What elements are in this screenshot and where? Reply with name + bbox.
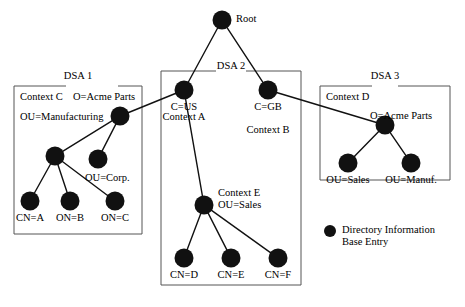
annotation-context_a: Context A (163, 111, 206, 123)
node-mid1 (46, 147, 65, 166)
directory-tree-diagram: DSA 1DSA 2DSA 3RootC=USC=GBOU=Manufactur… (0, 0, 465, 307)
node-label-cn_d: CN=D (170, 269, 198, 281)
node-label-cgb: C=GB (254, 101, 282, 113)
dsa-title-dsa3: DSA 3 (371, 70, 399, 82)
node-root (213, 11, 232, 30)
edge-ou_sales_e-to-cn_e (208, 212, 228, 251)
node-label-ou_sales_e: OU=Sales (218, 199, 261, 211)
node-ou_manuf3 (402, 154, 421, 173)
legend-label: Directory InformationBase Entry (342, 224, 435, 247)
legend-label-line-1: Directory Information (342, 224, 435, 236)
node-label-cn_f: CN=F (265, 269, 291, 281)
annotation-context_e: Context E (218, 187, 260, 199)
node-cn_a (21, 192, 40, 211)
edge-ou_sales_e-to-cn_f (211, 210, 272, 254)
edge-mid1-to-on_b (58, 164, 68, 194)
node-label-on_b: ON=B (56, 212, 84, 224)
edge-root-to-cus (188, 27, 218, 83)
node-on_b (61, 192, 80, 211)
node-label-ou_manu: OU=Manufacturing (20, 111, 103, 123)
annotation-context_c: Context C (20, 91, 63, 103)
node-cus (175, 81, 194, 100)
node-cgb (259, 81, 278, 100)
node-label-ou_sales3: OU=Sales (326, 174, 369, 186)
edge-ou_sales_e-to-cn_d (187, 212, 201, 250)
node-cn_d (175, 249, 194, 268)
node-cn_f (269, 249, 288, 268)
annotation-context_b: Context B (247, 124, 290, 136)
edge-o_acme_d3-to-ou_sales3 (354, 131, 380, 158)
dsa-title-dsa2: DSA 2 (217, 60, 245, 72)
node-on_c (106, 192, 125, 211)
edge-o_acme_d3-to-ou_manuf3 (390, 132, 407, 157)
legend-label-line-2: Base Entry (342, 236, 435, 248)
node-label-cn_e: CN=E (218, 269, 245, 281)
edge-root-to-cgb (226, 27, 263, 84)
legend-node-dot-icon (324, 225, 336, 237)
node-ou_manu (111, 107, 130, 126)
edge-ou_manu-to-ou_corp (102, 123, 117, 152)
node-label-on_c: ON=C (101, 212, 129, 224)
node-label-o_acme_d3: O=Acme Parts (370, 110, 432, 122)
legend-symbol (324, 225, 336, 237)
node-ou_sales_e (195, 196, 214, 215)
annotation-context_d: Context D (326, 91, 369, 103)
node-label-cn_a: CN=A (16, 212, 44, 224)
node-ou_sales3 (339, 154, 358, 173)
node-label-ou_manuf3: OU=Manuf. (385, 174, 437, 186)
edge-mid1-to-cn_a (34, 163, 51, 194)
dsa-title-dsa1: DSA 1 (64, 70, 92, 82)
edge-ou_manu-to-mid1 (62, 120, 113, 152)
annotation-o_acme_dsa1: O=Acme Parts (73, 91, 135, 103)
node-label-root: Root (236, 13, 256, 25)
diagram-canvas (0, 0, 465, 307)
node-ou_corp (89, 150, 108, 169)
node-cn_e (222, 249, 241, 268)
node-label-ou_corp: OU=Corp. (85, 172, 130, 184)
